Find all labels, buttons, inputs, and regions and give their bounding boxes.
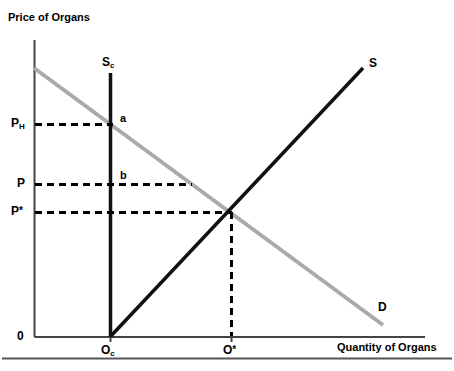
price-mid-label: P <box>17 177 25 189</box>
price-equilibrium-label-star: * <box>19 205 23 216</box>
y-axis-title: Price of Organs <box>8 12 90 23</box>
chart-background <box>0 0 454 371</box>
quantity-equilibrium-label: O* <box>223 344 236 356</box>
supply-demand-chart <box>0 0 454 371</box>
supply-label: S <box>369 57 377 69</box>
demand-label: D <box>378 301 387 313</box>
quantity-constrained-label: Oc <box>101 344 115 358</box>
price-high-label: PH <box>11 117 25 131</box>
price-equilibrium-label-main: P <box>11 204 19 218</box>
price-high-label-main: P <box>11 116 19 130</box>
point-a-label: a <box>120 113 126 124</box>
constrained-supply-label: Sc <box>102 56 114 70</box>
quantity-equilibrium-label-main: O <box>223 343 232 357</box>
quantity-constrained-label-sub: c <box>110 349 114 358</box>
price-high-label-sub: H <box>19 122 25 131</box>
origin-label: 0 <box>17 330 24 342</box>
quantity-constrained-label-main: O <box>101 343 110 357</box>
price-equilibrium-label: P* <box>11 205 23 217</box>
point-b-label: b <box>120 170 127 181</box>
constrained-supply-label-sub: c <box>110 61 114 70</box>
constrained-supply-label-main: S <box>102 55 110 69</box>
x-axis-title: Quantity of Organs <box>337 342 437 353</box>
quantity-equilibrium-label-star: * <box>232 344 236 355</box>
